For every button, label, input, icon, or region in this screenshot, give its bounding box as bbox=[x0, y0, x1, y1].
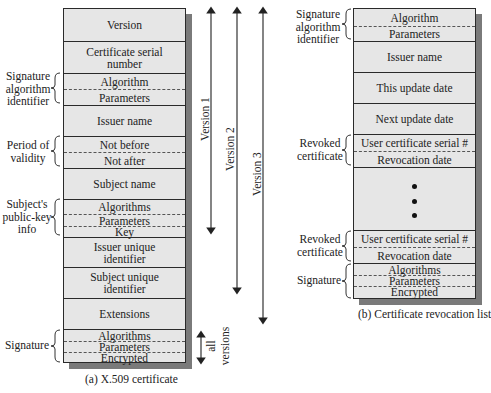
brace-icon bbox=[341, 263, 353, 299]
version-1-label: Version 1 bbox=[199, 94, 211, 144]
field-signature-encrypted: Encrypted bbox=[64, 352, 185, 362]
field-sig-parameters: Parameters bbox=[64, 89, 185, 105]
crl-field-next-update: Next update date bbox=[354, 103, 475, 134]
field-serial-number-text: Certificate serial number bbox=[78, 46, 171, 70]
field-subject-unique-id: Subject unique identifier bbox=[64, 267, 185, 298]
crl-field-algorithm: Algorithm bbox=[354, 9, 475, 26]
crl-group-label-sig-alg-id: Signature algorithm identifier bbox=[292, 8, 344, 46]
all-label: all bbox=[205, 331, 217, 361]
field-extensions: Extensions bbox=[64, 298, 185, 329]
brace-icon bbox=[50, 329, 62, 363]
crl-group-label-revoked-2: Revoked certificate bbox=[296, 233, 344, 258]
field-issuer-unique-id: Issuer unique identifier bbox=[64, 237, 185, 267]
brace-icon bbox=[50, 72, 62, 104]
group-label-period-validity: Period of validity bbox=[4, 139, 52, 164]
field-signature-parameters: Parameters bbox=[64, 341, 185, 352]
field-sig-algorithm: Algorithm bbox=[64, 73, 185, 89]
field-serial-number: Certificate serial number bbox=[64, 41, 185, 73]
crl-field-revocation-date-2: Revocation date bbox=[354, 247, 475, 263]
crl-group-label-signature: Signature bbox=[296, 274, 342, 287]
crl-field-signature-encrypted: Encrypted bbox=[354, 286, 475, 297]
field-signature-algorithms: Algorithms bbox=[64, 329, 185, 341]
field-issuer-name: Issuer name bbox=[64, 105, 185, 136]
brace-icon bbox=[341, 134, 353, 166]
field-subject-unique-id-text: Subject unique identifier bbox=[80, 271, 169, 295]
caption-crl: (b) Certificate revocation list bbox=[358, 308, 491, 320]
field-subject-name: Subject name bbox=[64, 168, 185, 199]
caption-x509: (a) X.509 certificate bbox=[85, 373, 178, 385]
crl-field-issuer-name: Issuer name bbox=[354, 41, 475, 72]
crl-field-revocation-date-1: Revocation date bbox=[354, 151, 475, 167]
group-label-signature: Signature bbox=[4, 339, 50, 352]
crl-group-label-revoked-1: Revoked certificate bbox=[296, 137, 344, 162]
x509-certificate-box: Version Certificate serial number Algori… bbox=[63, 8, 186, 363]
field-not-before: Not before bbox=[64, 136, 185, 152]
brace-icon bbox=[50, 135, 62, 167]
field-not-after: Not after bbox=[64, 152, 185, 168]
versions-label: versions bbox=[219, 321, 231, 371]
version-2-label: Version 2 bbox=[224, 124, 236, 174]
group-label-public-key-info: Subject's public-key info bbox=[2, 198, 52, 236]
crl-field-this-update: This update date bbox=[354, 72, 475, 103]
crl-field-user-cert-serial-2: User certificate serial # bbox=[354, 230, 475, 247]
brace-icon bbox=[341, 230, 353, 262]
version-arrows bbox=[195, 0, 275, 370]
ellipsis-dot-icon bbox=[412, 213, 417, 218]
field-issuer-unique-id-text: Issuer unique identifier bbox=[84, 241, 165, 265]
crl-box: Algorithm Parameters Issuer name This up… bbox=[353, 8, 476, 299]
ellipsis-dot-icon bbox=[412, 184, 417, 189]
crl-field-parameters: Parameters bbox=[354, 26, 475, 41]
field-pk-algorithms: Algorithms bbox=[64, 199, 185, 214]
ellipsis-dot-icon bbox=[412, 199, 417, 204]
crl-field-ellipsis bbox=[354, 167, 475, 230]
crl-field-user-cert-serial-1: User certificate serial # bbox=[354, 134, 475, 151]
brace-icon bbox=[341, 8, 353, 40]
field-version: Version bbox=[64, 9, 185, 41]
version-3-label: Version 3 bbox=[251, 149, 263, 199]
crl-field-signature-algorithms: Algorithms bbox=[354, 263, 475, 275]
crl-field-signature-parameters: Parameters bbox=[354, 275, 475, 286]
group-label-sig-alg-id: Signature algorithm identifier bbox=[2, 70, 54, 108]
field-pk-parameters: Parameters bbox=[64, 214, 185, 226]
brace-icon bbox=[50, 198, 62, 236]
field-pk-key: Key bbox=[64, 226, 185, 237]
